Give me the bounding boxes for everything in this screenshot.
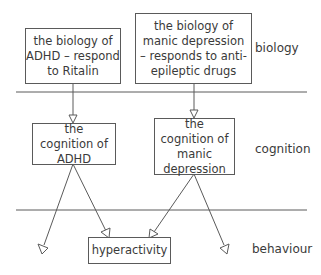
box-biology-adhd-text: the biology of ADHD – respond to Ritalin bbox=[26, 34, 120, 79]
arrow-cognition-adhd-to-behaviour-left bbox=[38, 164, 73, 254]
box-biology-manic-depression: the biology of manic depression – respon… bbox=[135, 13, 252, 84]
box-cognition-manic-depression: the cognition of manic depression bbox=[154, 118, 235, 175]
box-biology-adhd: the biology of ADHD – respond to Ritalin bbox=[25, 28, 121, 84]
level-label-behaviour: behaviour bbox=[252, 242, 312, 256]
arrow-cognition-manic-to-behaviour-right bbox=[194, 174, 229, 254]
box-cognition-adhd-text: the cognition of ADHD bbox=[37, 122, 111, 167]
box-cognition-adhd: the cognition of ADHD bbox=[32, 123, 116, 165]
arrow-cognition-adhd-to-hyperactivity bbox=[73, 164, 110, 238]
box-hyperactivity-text: hyperactivity bbox=[92, 243, 168, 258]
box-hyperactivity: hyperactivity bbox=[88, 237, 171, 264]
box-biology-manic-text: the biology of manic depression – respon… bbox=[140, 19, 247, 79]
arrow-cognition-manic-to-hyperactivity bbox=[149, 174, 194, 238]
box-cognition-manic-text: the cognition of manic depression bbox=[158, 117, 231, 177]
arrow-biology-manic-to-cognition-manic bbox=[190, 83, 198, 118]
level-label-cognition: cognition bbox=[255, 142, 310, 156]
arrow-biology-adhd-to-cognition-adhd bbox=[69, 83, 77, 123]
level-label-biology: biology bbox=[255, 41, 299, 55]
